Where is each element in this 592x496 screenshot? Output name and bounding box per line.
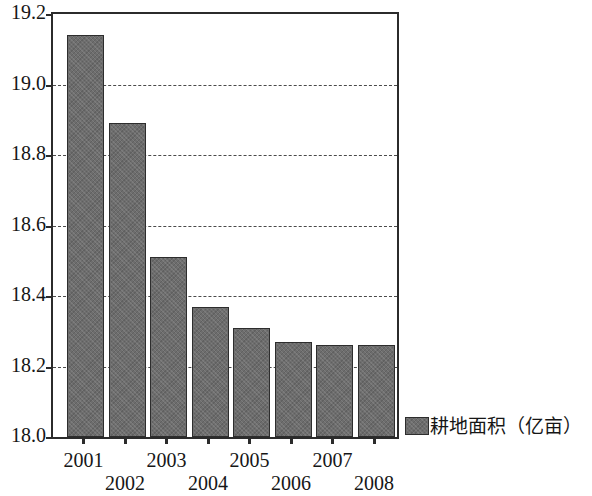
- x-axis-tick-label: 2007: [313, 449, 353, 471]
- legend-label: 耕地面积（亿亩）: [430, 416, 582, 436]
- bar: [316, 345, 353, 437]
- x-axis-tick: [290, 437, 293, 444]
- y-axis-tick-label: 19.0: [0, 73, 46, 93]
- x-axis-tick: [82, 437, 85, 444]
- y-axis-tick: [46, 85, 53, 87]
- bar-chart: 18.018.218.418.618.819.019.2 20012002200…: [0, 0, 592, 496]
- gridline: [53, 85, 397, 86]
- x-axis-tick-label: 2001: [64, 449, 104, 471]
- x-axis-tick-label: 2004: [188, 472, 228, 494]
- x-axis-tick-label: 2008: [354, 472, 394, 494]
- y-axis-tick-label: 19.2: [0, 2, 46, 22]
- x-axis-tick-label: 2006: [271, 472, 311, 494]
- x-axis-tick: [207, 437, 210, 444]
- bar: [358, 345, 395, 437]
- y-axis-tick: [46, 296, 53, 298]
- x-axis-tick: [331, 437, 334, 444]
- x-axis-tick: [373, 437, 376, 444]
- y-axis-tick-label: 18.8: [0, 143, 46, 163]
- plot-area: [51, 12, 399, 439]
- y-axis-tick: [46, 226, 53, 228]
- bar: [150, 257, 187, 437]
- gridline: [53, 155, 397, 156]
- bar: [192, 307, 229, 437]
- legend: 耕地面积（亿亩）: [405, 416, 582, 436]
- y-axis-tick-label: 18.0: [0, 425, 46, 445]
- y-axis-tick: [46, 14, 53, 16]
- y-axis-tick-label: 18.4: [0, 284, 46, 304]
- bar: [109, 123, 146, 437]
- x-axis-tick-label: 2002: [105, 472, 145, 494]
- y-axis-tick-label: 18.2: [0, 355, 46, 375]
- gridline: [53, 296, 397, 297]
- y-axis-tick: [46, 155, 53, 157]
- y-axis-tick: [46, 367, 53, 369]
- x-axis-tick: [165, 437, 168, 444]
- bar: [67, 35, 104, 437]
- bar: [233, 328, 270, 437]
- y-axis-tick-label: 18.6: [0, 214, 46, 234]
- x-axis-tick: [124, 437, 127, 444]
- legend-swatch-icon: [405, 417, 429, 435]
- gridline: [53, 226, 397, 227]
- bar: [275, 342, 312, 437]
- y-axis-tick: [46, 437, 53, 439]
- x-axis-tick-label: 2003: [147, 449, 187, 471]
- x-axis-tick-label: 2005: [230, 449, 270, 471]
- x-axis-tick: [248, 437, 251, 444]
